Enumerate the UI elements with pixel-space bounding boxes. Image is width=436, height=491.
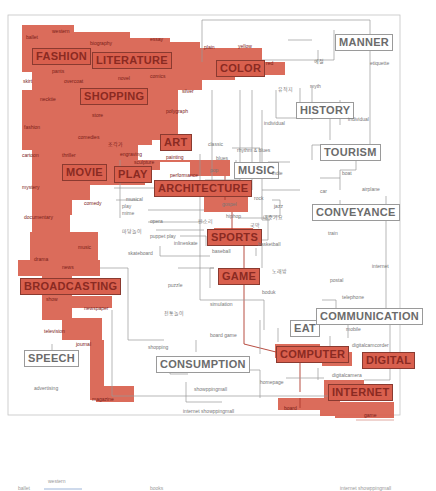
leaf-skateboard: skateboard: [128, 250, 153, 256]
leaf-essay: essay: [150, 36, 163, 42]
leaf-skirt: skirt: [23, 78, 32, 84]
node-history[interactable]: HISTORY: [296, 102, 354, 119]
node-game[interactable]: GAME: [218, 268, 260, 285]
node-color[interactable]: COLOR: [216, 60, 265, 77]
node-computer[interactable]: COMPUTER: [276, 346, 349, 363]
leaf-necktie: necktie: [40, 96, 56, 102]
leaf-comedies: comedies: [78, 134, 99, 140]
leaf-korean-d: 국악: [250, 222, 260, 228]
leaf-korean-a: 조각가: [108, 141, 123, 147]
leaf-rhythm-blues: rhythm & blues: [237, 147, 270, 153]
leaf-inlineskate: inlineskate: [174, 240, 198, 246]
leaf-indie: indie: [272, 170, 283, 176]
legend-label-d: internet showppingmall: [340, 485, 391, 491]
leaf-shopping: shopping: [148, 344, 168, 350]
leaf-gospel: gospel: [222, 201, 237, 207]
node-broadcasting[interactable]: BROADCASTING: [20, 278, 121, 295]
leaf-korean-i: 유적지: [278, 86, 293, 92]
leaf-play: play: [122, 203, 131, 209]
leaf-boduk: boduk: [262, 289, 276, 295]
leaf-performance: performance: [170, 172, 198, 178]
leaf-opera: opera: [150, 218, 163, 224]
node-literature[interactable]: LITERATURE: [92, 52, 172, 69]
leaf-puzzle: puzzle: [168, 282, 182, 288]
leaf-hiphop: hiphop: [226, 213, 241, 219]
leaf-boat: boat: [342, 170, 352, 176]
legend-label-c: books: [150, 485, 163, 491]
leaf-mobile: mobile: [346, 326, 361, 332]
leaf-newspaper: newspaper: [84, 305, 108, 311]
leaf-train: train: [328, 230, 338, 236]
leaf-pants: pants: [52, 68, 64, 74]
node-shopping[interactable]: SHOPPING: [80, 88, 148, 105]
leaf-etiquette: etiquette: [370, 60, 389, 66]
leaf-painting: painting: [166, 154, 184, 160]
leaf-mystery: mystery: [22, 184, 40, 190]
leaf-puppet-play: puppet play: [150, 233, 176, 239]
node-movie[interactable]: MOVIE: [62, 164, 107, 181]
node-speech[interactable]: SPEECH: [24, 350, 79, 367]
leaf-red: red: [266, 60, 273, 66]
leaf-myth: myth: [310, 83, 321, 89]
leaf-airplane: airplane: [362, 186, 380, 192]
leaf-rock: rock: [254, 195, 263, 201]
leaf-korean-c: 대중가요: [263, 214, 283, 220]
leaf-digitalcamera: digitalcamera: [332, 372, 362, 378]
node-manner[interactable]: MANNER: [335, 34, 393, 51]
leaf-blues: blues: [216, 155, 228, 161]
node-sports[interactable]: SPORTS: [207, 229, 262, 246]
leaf-classic: classic: [208, 141, 223, 147]
leaf-korean-h: 예절: [314, 58, 324, 64]
leaf-showppingmall: showppingmall: [194, 386, 227, 392]
leaf-basketball: basketball: [258, 241, 281, 247]
leaf-board-game: board game: [210, 332, 237, 338]
leaf-car: car: [320, 188, 327, 194]
node-communication[interactable]: COMMUNICATION: [316, 308, 423, 325]
leaf-korean-g: 전통놀이: [164, 310, 184, 316]
leaf-advertising: advertising: [34, 385, 58, 391]
leaf-mime: mime: [122, 210, 134, 216]
leaf-baseball: baseball: [212, 248, 231, 254]
node-internet[interactable]: INTERNET: [328, 384, 393, 401]
node-conveyance[interactable]: CONVEYANCE: [312, 204, 400, 221]
leaf-drama: drama: [34, 256, 48, 262]
leaf-comics: comics: [150, 73, 166, 79]
leaf-western: western: [52, 28, 70, 34]
leaf-internet: internet: [372, 263, 389, 269]
leaf-ballet: ballet: [26, 34, 38, 40]
leaf-pop: pop: [210, 167, 218, 173]
node-play[interactable]: PLAY: [114, 166, 152, 183]
node-digital[interactable]: DIGITAL: [362, 352, 415, 369]
leaf-simulation: simulation: [210, 301, 233, 307]
leaf-comedy: comedy: [84, 200, 102, 206]
leaf-telephone: telephone: [342, 294, 364, 300]
leaf-korean-e: 마당놀이: [122, 228, 142, 234]
leaf-yellow: yellow: [238, 43, 252, 49]
node-tourism[interactable]: TOURISM: [320, 144, 381, 161]
leaf-internet-showppingmall: internet showppingmall: [183, 408, 234, 414]
leaf-sculpture: sculpture: [134, 159, 154, 165]
leaf-biography: biography: [90, 40, 112, 46]
leaf-homepage: homepage: [260, 379, 284, 385]
leaf-musical: musical: [126, 196, 143, 202]
leaf-thriller: thriller: [62, 152, 76, 158]
leaf-show: show: [46, 296, 58, 302]
leaf-individual-a: individual: [264, 120, 285, 126]
leaf-silver: silver: [182, 88, 194, 94]
leaf-magazine: magazine: [92, 396, 114, 402]
leaf-cartoon: cartoon: [22, 152, 39, 158]
leaf-korean-f: 노래방: [272, 268, 287, 274]
node-fashion[interactable]: FASHION: [32, 48, 91, 65]
node-art[interactable]: ART: [160, 134, 192, 151]
leaf-game: game: [364, 412, 377, 418]
leaf-journal: journal: [76, 341, 91, 347]
leaf-digitalcamcorder: digitalcamcorder: [352, 342, 389, 348]
node-consumption[interactable]: CONSUMPTION: [156, 356, 250, 373]
legend-label-b: western: [48, 478, 66, 484]
leaf-music: music: [78, 244, 91, 250]
legend-label-a: ballet: [18, 485, 30, 491]
node-architecture[interactable]: ARCHITECTURE: [154, 180, 252, 197]
leaf-novel: novel: [118, 75, 130, 81]
leaf-documentary: documentary: [24, 214, 53, 220]
leaf-overcoat: overcoat: [64, 78, 83, 84]
